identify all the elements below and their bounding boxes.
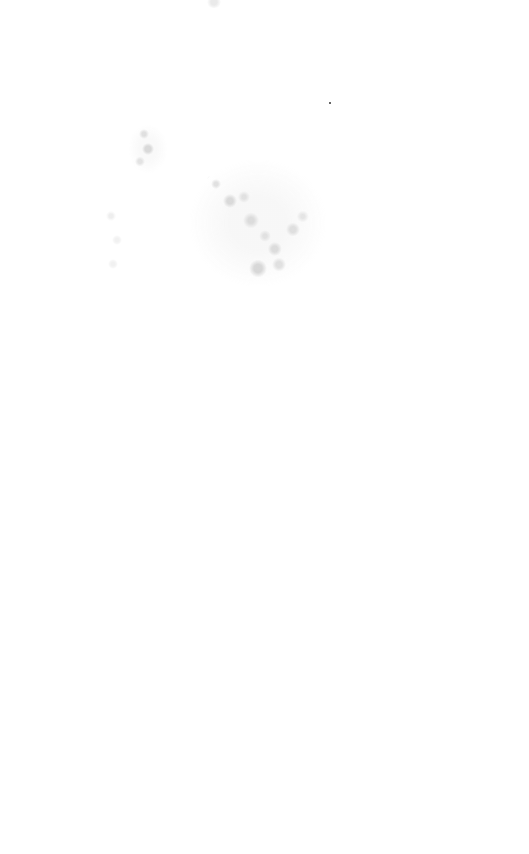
speckle-cluster-faint	[95, 200, 135, 280]
speckle-cluster-small	[128, 124, 168, 174]
dark-dot	[329, 102, 331, 104]
speckle-cluster-main	[188, 158, 328, 288]
blank-canvas	[0, 0, 529, 854]
speckle-top-edge	[205, 0, 223, 8]
